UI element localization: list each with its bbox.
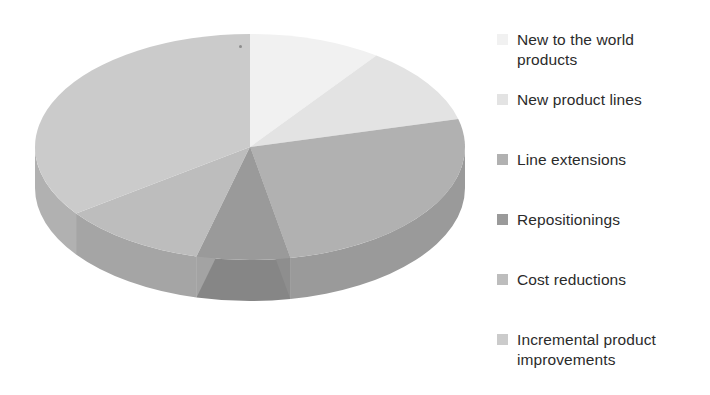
legend-item[interactable]: Line extensions: [497, 150, 710, 170]
legend-item[interactable]: New to the world products: [497, 30, 710, 69]
chart-legend: New to the world productsNew product lin…: [497, 12, 710, 384]
pie-slice-tops-group: New to the world productsNew product lin…: [35, 34, 465, 260]
legend-item[interactable]: Cost reductions: [497, 270, 710, 290]
legend-item-label: Incremental product improvements: [517, 330, 656, 369]
pie-chart-figure: New to the world productsNew product lin…: [0, 0, 710, 395]
legend-swatch-cost-reductions: [497, 274, 508, 285]
legend-item[interactable]: Incremental product improvements: [497, 330, 710, 369]
legend-item-label: New product lines: [517, 90, 642, 110]
legend-swatch-new-product-lines: [497, 94, 508, 105]
legend-item[interactable]: New product lines: [497, 90, 710, 110]
legend-swatch-line-extensions: [497, 154, 508, 165]
legend-item-label: Cost reductions: [517, 270, 626, 290]
stray-speck-artifact: [239, 45, 242, 48]
legend-item-label: Line extensions: [517, 150, 626, 170]
legend-item-label: New to the world products: [517, 30, 634, 69]
legend-swatch-new-to-the-world-products: [497, 34, 508, 45]
legend-swatch-repositionings: [497, 214, 508, 225]
pie-chart-svg: New to the world productsNew product lin…: [0, 0, 490, 395]
legend-swatch-incremental-product-improvements: [497, 334, 508, 345]
legend-item-label: Repositionings: [517, 210, 620, 230]
pie-chart-plot-area: New to the world productsNew product lin…: [0, 0, 490, 395]
legend-item[interactable]: Repositionings: [497, 210, 710, 230]
